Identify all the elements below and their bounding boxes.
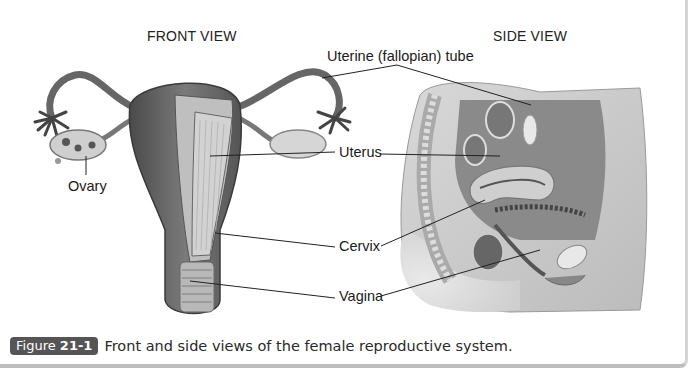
figure-panel: FRONT VIEW SIDE VIEW Uterine (fallopian)… — [0, 0, 688, 368]
figure-caption: Figure 21-1 Front and side views of the … — [10, 337, 513, 355]
figure-badge: Figure 21-1 — [10, 337, 98, 355]
label-vagina: Vagina — [339, 288, 383, 304]
label-uterine-tube: Uterine (fallopian) tube — [327, 48, 474, 64]
label-uterus: Uterus — [339, 144, 382, 160]
front-view-title: FRONT VIEW — [147, 28, 237, 44]
figure-badge-prefix: Figure — [16, 338, 56, 353]
label-cervix: Cervix — [339, 238, 380, 254]
side-view-illustration — [400, 83, 646, 312]
side-view-title: SIDE VIEW — [493, 28, 567, 44]
caption-text: Front and side views of the female repro… — [104, 338, 512, 354]
label-ovary: Ovary — [68, 178, 107, 194]
figure-badge-number: 21-1 — [60, 338, 93, 353]
